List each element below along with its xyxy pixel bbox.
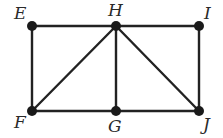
edge-h-j	[116, 26, 199, 111]
vertex-e	[27, 21, 37, 31]
vertex-label-h: H	[107, 0, 124, 20]
vertex-i	[194, 21, 204, 31]
vertex-f	[27, 106, 37, 116]
vertex-label-i: I	[203, 3, 211, 23]
vertex-h	[111, 21, 121, 31]
graph-diagram: EHIFGJ	[0, 0, 223, 138]
vertex-g	[111, 106, 121, 116]
vertex-label-e: E	[13, 3, 27, 23]
edge-f-h	[32, 26, 116, 111]
vertex-label-g: G	[108, 116, 122, 136]
edges-group	[32, 26, 199, 111]
labels-group: EHIFGJ	[13, 0, 211, 136]
vertex-label-j: J	[200, 114, 211, 134]
vertex-label-f: F	[13, 112, 27, 132]
